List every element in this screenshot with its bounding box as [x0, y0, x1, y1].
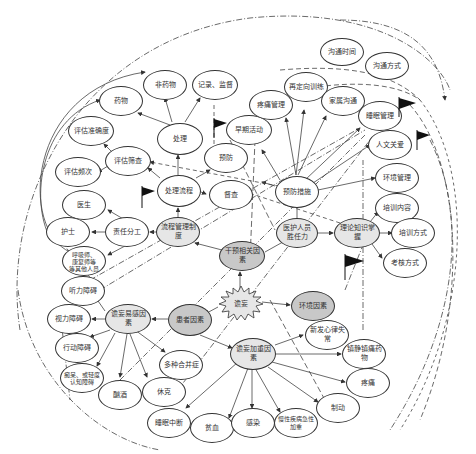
- node-label: 早期活动: [233, 126, 265, 135]
- flag-icon: [344, 254, 366, 280]
- node-label: 休克: [155, 388, 173, 397]
- node-label: 多种合并症: [162, 361, 201, 370]
- node-medical-staff-competence: 医护人员 胜任力: [276, 218, 318, 248]
- node-communication-method: 沟通方式: [365, 52, 409, 80]
- node-pain: 疼痛: [346, 368, 390, 398]
- node-theory-knowledge: 理论知识掌握: [334, 218, 380, 248]
- node-label: 医生: [75, 201, 93, 210]
- node-label: 理论知识掌握: [335, 224, 379, 242]
- flag-icon: [398, 97, 418, 117]
- node-assessment-screening: 评估筛查: [105, 146, 151, 176]
- node-label: 谵妄易感因素: [106, 310, 150, 328]
- node-non-drug: 非药物: [143, 70, 187, 100]
- node-label: 痴呆、或轻度 认知障碍: [62, 371, 102, 385]
- node-label: 疼痛管理: [255, 101, 287, 110]
- node-dementia: 痴呆、或轻度 认知障碍: [60, 363, 104, 393]
- node-hearing-impairment: 听力障碍: [61, 276, 105, 306]
- node-label: 酗酒: [111, 391, 129, 400]
- node-label: 制动: [329, 404, 347, 413]
- node-label: 评估准确度: [72, 127, 111, 136]
- node-environmental-factors: 环境因素: [291, 291, 335, 321]
- flag-icon: [416, 130, 432, 150]
- node-doctor: 医生: [62, 190, 106, 220]
- node-label: 新发心律失常: [306, 326, 348, 344]
- node-label: 考核方式: [389, 259, 421, 268]
- node-preventive-measures: 预防措施: [275, 176, 319, 208]
- node-label: 睡眠中断: [153, 419, 185, 428]
- node-label: 行动障碍: [61, 344, 93, 353]
- node-label: 环境管理: [381, 174, 413, 183]
- node-assessment-accuracy: 评估准确度: [68, 116, 114, 146]
- node-label: 沟通时间: [326, 48, 358, 57]
- node-label: 慢性疾病急性 加重: [276, 415, 316, 431]
- node-label: 沟通方式: [371, 62, 403, 71]
- flag-icon: [141, 186, 157, 208]
- node-infection: 感染: [231, 408, 275, 438]
- delirium-fishbone-network-diagram: 非药物 记录、监督 药物 评估准确度 处理 评估筛查 评估频次 处理流程 预防 …: [0, 0, 476, 454]
- node-label: 睡眠管理: [364, 112, 396, 121]
- node-sedative-analgesics: 镇静镇痛药物: [342, 339, 386, 369]
- node-label: 预防措施: [281, 188, 313, 197]
- node-intervention-factors: 干预相关因素: [219, 241, 265, 271]
- node-aggravating-factors: 谵妄加重因素: [230, 338, 276, 370]
- node-label: 责任分工: [111, 228, 143, 237]
- node-label: 镇静镇痛药物: [343, 345, 385, 363]
- node-handling-process: 处理流程: [157, 175, 201, 207]
- node-sleep-management: 睡眠管理: [358, 101, 402, 131]
- node-label: 非药物: [153, 81, 178, 90]
- node-label: 再定向训练: [287, 83, 326, 92]
- node-label: 流程管理制度: [157, 223, 199, 241]
- node-patient-factors: 患者因素: [168, 304, 212, 336]
- node-label: 培训内容: [381, 204, 413, 213]
- node-label: 记录、监督: [196, 81, 235, 90]
- node-nurse: 护士: [46, 217, 90, 247]
- node-label: 谵妄加重因素: [231, 345, 275, 363]
- node-chronic-disease-exacerbation: 慢性疾病急性 加重: [274, 408, 318, 438]
- node-label: 培训方式: [397, 229, 429, 238]
- node-process-management-system: 流程管理制度: [156, 217, 200, 247]
- node-label: 处理: [171, 135, 189, 144]
- node-record-supervise: 记录、监督: [192, 70, 238, 100]
- node-label: 环境因素: [297, 302, 329, 311]
- node-label: 护士: [59, 228, 77, 237]
- node-vision-impairment: 视力障碍: [47, 304, 91, 334]
- node-responsibility-division: 责任分工: [105, 217, 149, 247]
- center-label: 谵妄: [234, 298, 248, 308]
- node-label: 听力障碍: [67, 287, 99, 296]
- node-label: 患者因素: [174, 316, 206, 325]
- node-sleep-interruption: 睡眠中断: [147, 408, 191, 438]
- node-other-staff: 呼吸师、 康复师等 等其他人员: [62, 246, 106, 276]
- node-label: 医护人员 胜任力: [281, 224, 313, 242]
- node-immobilization: 制动: [316, 393, 360, 423]
- node-alcoholism: 酗酒: [98, 380, 142, 410]
- node-mobility-impairment: 行动障碍: [55, 333, 99, 363]
- node-label: 评估频次: [62, 168, 94, 177]
- node-label: 处理流程: [163, 187, 195, 196]
- node-assessment-method: 考核方式: [383, 248, 427, 278]
- node-label: 家属沟通: [327, 97, 359, 106]
- node-drug: 药物: [99, 86, 143, 116]
- node-label: 药物: [112, 97, 130, 106]
- node-susceptibility-factors: 谵妄易感因素: [105, 304, 151, 334]
- node-multiple-comorbidities: 多种合并症: [159, 350, 203, 380]
- node-prevention: 预防: [204, 143, 248, 173]
- node-label: 贫血: [203, 424, 221, 433]
- node-assessment-frequency: 评估频次: [55, 157, 101, 187]
- node-humanistic-care: 人文关爱: [368, 130, 412, 160]
- node-training-method: 培训方式: [391, 218, 435, 248]
- node-communication-time: 沟通时间: [320, 38, 364, 66]
- node-environment-management: 环境管理: [375, 163, 419, 193]
- node-shock: 休克: [142, 377, 186, 407]
- node-inspection: 督查: [209, 180, 253, 210]
- center-delirium-burst: 谵妄: [219, 286, 263, 320]
- flag-icon: [213, 118, 229, 138]
- node-label: 视力障碍: [53, 315, 85, 324]
- node-label: 预防: [217, 154, 235, 163]
- node-label: 呼吸师、 康复师等 等其他人员: [67, 251, 101, 272]
- node-label: 评估筛查: [112, 157, 144, 166]
- node-label: 人文关爱: [374, 141, 406, 150]
- node-label: 督查: [222, 191, 240, 200]
- node-label: 感染: [244, 419, 262, 428]
- node-anemia: 贫血: [190, 413, 234, 443]
- node-treatment: 处理: [157, 123, 203, 155]
